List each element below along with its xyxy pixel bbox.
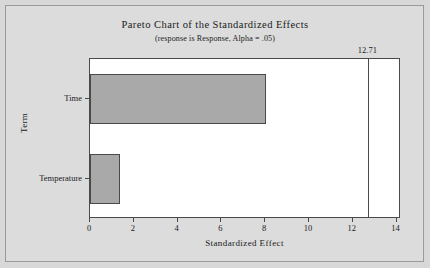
bar-time bbox=[90, 74, 266, 124]
x-axis-tick bbox=[264, 218, 265, 222]
x-axis-tick-label: 14 bbox=[391, 223, 400, 233]
x-axis-tick-label: 2 bbox=[131, 223, 135, 233]
y-axis-tick bbox=[85, 98, 89, 99]
x-axis-tick bbox=[308, 218, 309, 222]
y-axis-tick-label: Temperature bbox=[39, 173, 82, 183]
reference-line-label: 12.71 bbox=[358, 45, 377, 55]
x-axis-tick bbox=[352, 218, 353, 222]
x-axis-tick-label: 10 bbox=[304, 223, 313, 233]
x-axis-tick bbox=[220, 218, 221, 222]
x-axis-title: Standardized Effect bbox=[89, 238, 400, 248]
pareto-chart-figure: Pareto Chart of the Standardized Effects… bbox=[0, 0, 430, 268]
reference-line bbox=[368, 59, 369, 217]
x-axis-tick-label: 6 bbox=[218, 223, 222, 233]
chart-subtitle: (response is Response, Alpha = .05) bbox=[0, 34, 430, 43]
y-axis-title: Term bbox=[19, 113, 29, 133]
x-axis-tick bbox=[89, 218, 90, 222]
x-axis-tick-label: 4 bbox=[174, 223, 178, 233]
x-axis-tick-label: 8 bbox=[262, 223, 266, 233]
x-axis-tick bbox=[396, 218, 397, 222]
x-axis-tick-label: 0 bbox=[87, 223, 91, 233]
plot-area bbox=[89, 58, 400, 218]
x-axis-tick-label: 12 bbox=[348, 223, 357, 233]
y-axis-tick-label: Time bbox=[64, 93, 82, 103]
bar-temperature bbox=[90, 154, 120, 204]
x-axis-tick bbox=[177, 218, 178, 222]
x-axis-tick bbox=[133, 218, 134, 222]
y-axis-tick bbox=[85, 178, 89, 179]
chart-title: Pareto Chart of the Standardized Effects bbox=[0, 19, 430, 30]
